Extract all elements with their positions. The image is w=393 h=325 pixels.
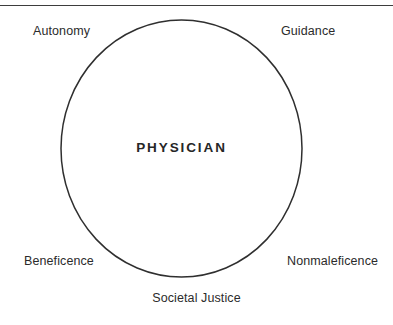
label-nonmaleficence: Nonmaleficence <box>287 254 378 268</box>
label-societal-justice: Societal Justice <box>0 291 393 305</box>
label-guidance: Guidance <box>281 24 335 38</box>
label-beneficence: Beneficence <box>24 254 94 268</box>
label-autonomy: Autonomy <box>33 24 90 38</box>
figure-root: Physician Ethics Diagram PHYSICIAN Auton… <box>0 0 393 325</box>
center-label-physician: PHYSICIAN <box>0 140 363 155</box>
physician-circle-graphic <box>0 0 393 325</box>
